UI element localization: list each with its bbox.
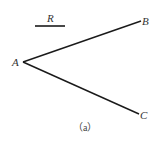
point-c-label: C xyxy=(140,109,148,121)
figure-caption: （a） xyxy=(73,122,97,133)
ray-ab xyxy=(23,21,141,62)
point-b-label: B xyxy=(142,15,149,27)
angle-diagram: R A B C （a） xyxy=(0,0,160,147)
point-a-label: A xyxy=(11,56,19,68)
ray-ac xyxy=(23,62,139,114)
segment-r-label: R xyxy=(46,12,54,24)
